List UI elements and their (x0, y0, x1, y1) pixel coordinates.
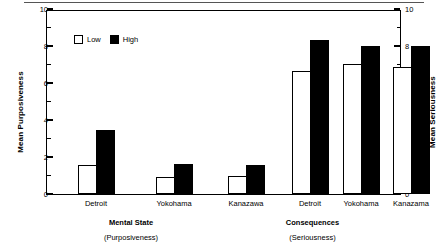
legend-label-high: High (123, 36, 138, 44)
y-tick-label-left: 8 (8, 43, 48, 51)
group-label-sub: (Purposiveness) (46, 234, 216, 242)
group-label-consequences: Consequences (Seriousness) (224, 219, 401, 241)
top-divider-rule (24, 2, 424, 3)
bar-low (393, 67, 412, 194)
y-tick-label-left: 4 (8, 117, 48, 125)
y-tick-minor-right (397, 27, 401, 28)
y-tick-label-right: 10 (405, 6, 445, 14)
group-label-mental-state: Mental State (Purposiveness) (46, 219, 216, 241)
bar-low (343, 64, 362, 194)
bar-low (78, 165, 97, 194)
bar-high (246, 165, 265, 194)
bar-high (361, 46, 380, 194)
y-tick-label-left: 0 (8, 191, 48, 199)
y-tick-major-right (394, 45, 400, 46)
legend-entry-low: Low (74, 35, 101, 44)
x-axis-label: Yokohama (134, 200, 214, 208)
chart-figure: Mean Purposiveness Mean Seriousness 0246… (0, 0, 447, 251)
bar-low (228, 176, 247, 195)
group-label-main: Consequences (224, 219, 401, 227)
x-axis-label: Detroit (56, 200, 136, 208)
y-tick-label-left: 10 (8, 6, 48, 14)
bar-high (310, 40, 329, 194)
bar-high (411, 46, 430, 194)
group-label-main: Mental State (46, 219, 216, 227)
x-axis-label: Kanazama (371, 200, 447, 208)
chart-legend: Low High (74, 35, 138, 44)
legend-entry-high: High (110, 35, 138, 44)
y-tick-label-left: 6 (8, 80, 48, 88)
bar-high (174, 164, 193, 194)
y-tick-major-right (394, 8, 400, 9)
bar-high (96, 130, 115, 194)
bar-low (292, 71, 311, 194)
bar-low (156, 177, 175, 194)
legend-swatch-high-icon (110, 35, 119, 44)
plot-area: 0246810 0246810 Low High (46, 10, 401, 195)
legend-label-low: Low (87, 36, 101, 44)
y-tick-minor-right (397, 64, 401, 65)
group-label-sub: (Seriousness) (224, 234, 401, 242)
legend-swatch-low-icon (74, 35, 83, 44)
y-tick-label-left: 2 (8, 154, 48, 162)
